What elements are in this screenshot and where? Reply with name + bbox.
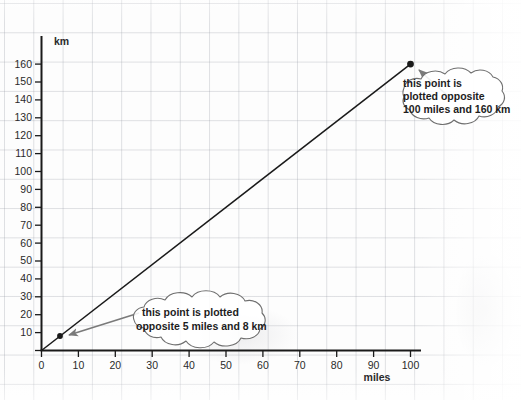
x-tick-label: 50 bbox=[220, 359, 232, 371]
x-axis-tick-labels: 0 10 20 30 40 50 60 70 80 90 100 bbox=[39, 359, 420, 371]
x-tick-label: 100 bbox=[402, 359, 420, 371]
y-tick-label: 60 bbox=[20, 237, 32, 249]
x-axis-title: miles bbox=[364, 371, 391, 383]
y-tick-label: 110 bbox=[15, 147, 32, 159]
y-tick-label: 20 bbox=[20, 308, 32, 320]
x-tick-label: 30 bbox=[146, 359, 158, 371]
upper-callout-line-2: plotted opposite bbox=[403, 90, 485, 102]
y-tick-label: 120 bbox=[14, 129, 32, 141]
lower-callout-arrow bbox=[69, 313, 139, 335]
x-tick-label: 10 bbox=[73, 359, 85, 371]
x-tick-label: 80 bbox=[331, 359, 343, 371]
y-tick-label: 160 bbox=[14, 58, 32, 70]
graph-page: 160 150 140 130 120 110 100 90 80 70 60 … bbox=[0, 0, 521, 400]
x-tick-label: 60 bbox=[257, 359, 269, 371]
lower-callout-line-2: opposite 5 miles and 8 km bbox=[136, 320, 267, 332]
y-tick-label: 10 bbox=[20, 326, 32, 338]
y-tick-label: 90 bbox=[20, 183, 32, 195]
conversion-graph: 160 150 140 130 120 110 100 90 80 70 60 … bbox=[0, 0, 521, 400]
y-tick-label: 140 bbox=[14, 93, 32, 105]
y-tick-label: 50 bbox=[20, 254, 32, 266]
y-tick-label: 80 bbox=[20, 201, 32, 213]
y-tick-label: 70 bbox=[20, 219, 32, 231]
x-tick-label: 0 bbox=[39, 359, 45, 371]
y-tick-label: 100 bbox=[14, 165, 32, 177]
x-tick-label: 40 bbox=[183, 359, 195, 371]
upper-callout: this point is plotted opposite 100 miles… bbox=[403, 68, 510, 124]
y-tick-label: 30 bbox=[20, 290, 32, 302]
upper-callout-line-1: this point is bbox=[403, 77, 462, 89]
y-axis-tick-labels: 160 150 140 130 120 110 100 90 80 70 60 … bbox=[14, 58, 32, 339]
lower-callout-line-1: this point is plotted bbox=[142, 306, 239, 318]
upper-callout-line-3: 100 miles and 160 km bbox=[403, 103, 510, 115]
y-tick-label: 40 bbox=[20, 272, 32, 284]
data-point-upper bbox=[407, 61, 414, 68]
data-point-lower bbox=[57, 333, 63, 339]
lower-callout: this point is plotted opposite 5 miles a… bbox=[133, 291, 266, 348]
x-tick-label: 20 bbox=[109, 359, 121, 371]
y-axis-title: km bbox=[54, 35, 69, 47]
x-tick-label: 70 bbox=[294, 359, 306, 371]
x-tick-label: 90 bbox=[368, 359, 380, 371]
y-tick-label: 150 bbox=[14, 75, 32, 87]
y-tick-label: 130 bbox=[14, 111, 32, 123]
